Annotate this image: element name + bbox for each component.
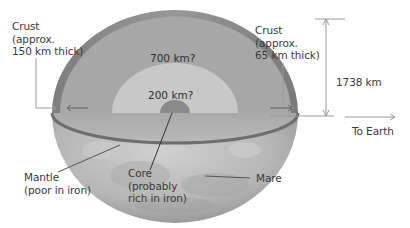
radius-label: 1738 km (336, 76, 382, 89)
mare-label: Mare (256, 172, 282, 185)
crust-left-label: Crust (approx. 150 km thick) (12, 20, 83, 58)
core-label: Core (probably rich in iron) (128, 167, 187, 205)
lower-mantle-depth-label: 200 km? (148, 89, 193, 101)
mantle-label: Mantle (poor in iron) (24, 171, 91, 196)
to-earth-label: To Earth (352, 125, 394, 138)
moon-structure-diagram: Crust (approx. 150 km thick) Crust (appr… (0, 0, 410, 228)
crust-right-label: Crust (approx. 65 km thick) (255, 24, 320, 62)
upper-mantle-depth-label: 700 km? (150, 52, 195, 64)
